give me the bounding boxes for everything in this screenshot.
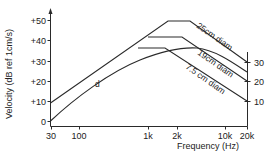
y-ticks: +50+40+30+20+100	[31, 16, 51, 127]
y-tick-label: +10	[31, 97, 46, 107]
x-axis-label: Frequency (Hz)	[177, 141, 239, 151]
frequency-response-chart: +50+40+30+20+100 301001k2k10k20k 302010 …	[0, 0, 272, 157]
y-tick-label: +50	[31, 16, 46, 26]
right-tick-label: 20	[254, 77, 264, 87]
right-tick-label: 10	[254, 97, 264, 107]
label-d: d	[95, 79, 100, 89]
y-tick-label: +30	[31, 57, 46, 67]
x-tick-label: 100	[71, 131, 86, 141]
y-tick-label: +20	[31, 77, 46, 87]
right-tick-label: 30	[254, 58, 264, 68]
x-ticks: 301001k2k10k20k	[46, 127, 255, 142]
y-tick-label: 0	[41, 117, 46, 127]
y-tick-label: +40	[31, 36, 46, 46]
y-axis-label: Velocity (dB ref 1cm/s)	[4, 29, 14, 119]
x-tick-label: 30	[46, 131, 56, 141]
x-tick-label: 1k	[143, 131, 153, 141]
x-tick-label: 10k	[218, 131, 233, 141]
x-tick-label: 2k	[172, 131, 182, 141]
x-tick-label: 20k	[240, 131, 255, 141]
y-axis-arrow-icon	[49, 8, 53, 14]
